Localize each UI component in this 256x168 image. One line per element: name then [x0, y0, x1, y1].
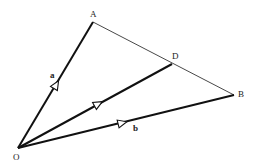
arrow-icon-od [93, 98, 105, 109]
arrow-icon-ob [117, 118, 128, 128]
label-point-b: B [238, 89, 244, 99]
label-point-o: O [13, 152, 20, 162]
label-point-d: D [172, 51, 179, 61]
vector-diagram: A D B O a b [0, 0, 256, 168]
label-vector-a: a [50, 70, 55, 80]
label-point-a: A [90, 9, 97, 19]
segment-ab [93, 22, 234, 95]
label-vector-b: b [133, 123, 138, 133]
